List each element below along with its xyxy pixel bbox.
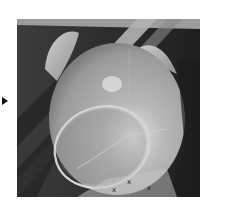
axis-label-x: x	[127, 179, 131, 186]
axis-label-x: x	[112, 187, 116, 194]
axis-label-x: x	[147, 185, 151, 192]
triangle-pointer-icon	[2, 97, 8, 105]
model-render	[17, 19, 200, 197]
dome-highlight	[102, 76, 122, 92]
3d-model-viewport[interactable]: x x x	[17, 19, 200, 197]
